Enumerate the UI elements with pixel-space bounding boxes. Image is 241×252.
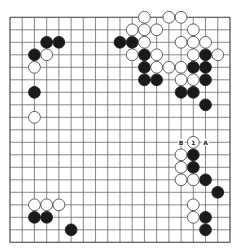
- markers-layer: 1BA: [178, 139, 209, 146]
- black-stone[interactable]: [126, 36, 138, 48]
- move-marker-1: 1: [191, 139, 195, 146]
- black-stone[interactable]: [200, 211, 212, 223]
- white-stone[interactable]: [151, 61, 163, 73]
- white-stone[interactable]: [187, 174, 199, 186]
- white-stone[interactable]: [175, 61, 187, 73]
- white-stone[interactable]: [139, 36, 151, 48]
- black-stone[interactable]: [200, 174, 212, 186]
- white-stone[interactable]: [29, 199, 41, 211]
- black-stone[interactable]: [151, 74, 163, 86]
- white-stone[interactable]: [187, 211, 199, 223]
- black-stone[interactable]: [187, 149, 199, 161]
- move-marker-a: A: [203, 139, 208, 146]
- white-stone[interactable]: [187, 199, 199, 211]
- white-stone[interactable]: [175, 36, 187, 48]
- white-stone[interactable]: [41, 199, 53, 211]
- white-stone[interactable]: [163, 61, 175, 73]
- white-stone[interactable]: [175, 174, 187, 186]
- white-stone[interactable]: [29, 111, 41, 123]
- white-stone[interactable]: [175, 149, 187, 161]
- white-stone[interactable]: [151, 24, 163, 36]
- white-stone[interactable]: [139, 24, 151, 36]
- white-stone[interactable]: [41, 49, 53, 61]
- black-stone[interactable]: [187, 86, 199, 98]
- black-stone[interactable]: [53, 36, 65, 48]
- white-stone[interactable]: [126, 24, 138, 36]
- stones-layer: [29, 11, 224, 235]
- black-stone[interactable]: [41, 36, 53, 48]
- black-stone[interactable]: [187, 61, 199, 73]
- black-stone[interactable]: [41, 211, 53, 223]
- white-stone[interactable]: [29, 61, 41, 73]
- black-stone[interactable]: [187, 161, 199, 173]
- black-stone[interactable]: [29, 49, 41, 61]
- go-board: 1BA: [0, 0, 241, 252]
- black-stone[interactable]: [200, 49, 212, 61]
- black-stone[interactable]: [139, 61, 151, 73]
- black-stone[interactable]: [200, 74, 212, 86]
- black-stone[interactable]: [65, 224, 77, 236]
- white-stone[interactable]: [53, 199, 65, 211]
- black-stone[interactable]: [212, 186, 224, 198]
- white-stone[interactable]: [175, 11, 187, 23]
- black-stone[interactable]: [139, 49, 151, 61]
- black-stone[interactable]: [139, 74, 151, 86]
- white-stone[interactable]: [139, 11, 151, 23]
- white-stone[interactable]: [187, 36, 199, 48]
- white-stone[interactable]: [175, 161, 187, 173]
- white-stone[interactable]: [126, 49, 138, 61]
- black-stone[interactable]: [29, 211, 41, 223]
- black-stone[interactable]: [200, 99, 212, 111]
- white-stone[interactable]: [163, 11, 175, 23]
- black-stone[interactable]: [200, 61, 212, 73]
- black-stone[interactable]: [200, 224, 212, 236]
- white-stone[interactable]: [151, 49, 163, 61]
- white-stone[interactable]: [187, 24, 199, 36]
- white-stone[interactable]: [200, 36, 212, 48]
- white-stone[interactable]: [187, 49, 199, 61]
- black-stone[interactable]: [29, 86, 41, 98]
- white-stone[interactable]: [187, 74, 199, 86]
- black-stone[interactable]: [175, 86, 187, 98]
- move-marker-b: B: [179, 139, 184, 146]
- black-stone[interactable]: [114, 36, 126, 48]
- white-stone[interactable]: [175, 74, 187, 86]
- white-stone[interactable]: [212, 49, 224, 61]
